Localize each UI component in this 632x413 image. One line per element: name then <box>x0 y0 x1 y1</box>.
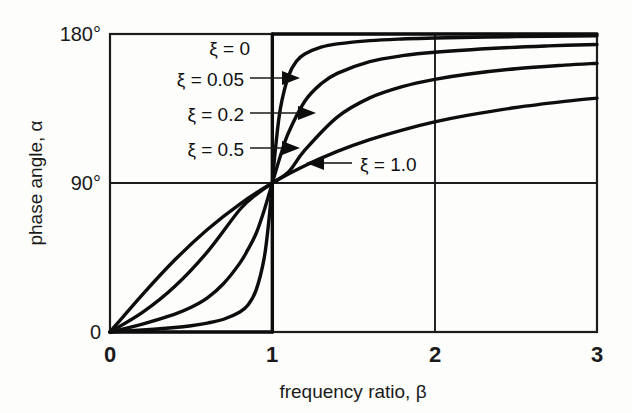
curve-series-4 <box>110 98 597 332</box>
xtick-1: 1 <box>266 342 278 367</box>
arrowhead-xi-10 <box>306 156 324 170</box>
x-axis-title: frequency ratio, β <box>279 381 426 402</box>
leader-xi-005 <box>250 71 300 85</box>
arrowhead-xi-05 <box>282 141 300 155</box>
leader-xi-02 <box>250 106 316 120</box>
xtick-2: 2 <box>429 342 441 367</box>
xtick-3: 3 <box>591 342 603 367</box>
series-label-xi-02: ξ = 0.2 <box>187 104 244 125</box>
chart-svg: ξ = 0 ξ = 0.05 ξ = 0.2 ξ = 0.5 ξ = 1.0 1… <box>0 0 632 413</box>
series-label-xi-05: ξ = 0.5 <box>187 139 244 160</box>
ytick-0: 0 <box>90 321 101 343</box>
curve-series-3 <box>110 63 597 332</box>
leader-xi-10 <box>306 156 352 170</box>
y-axis-title: phase angle, α <box>25 120 46 245</box>
phase-angle-chart-figure: ξ = 0 ξ = 0.05 ξ = 0.2 ξ = 0.5 ξ = 1.0 1… <box>0 0 632 413</box>
ytick-90: 90° <box>71 172 101 194</box>
ytick-180: 180° <box>60 23 101 45</box>
series-label-xi-0: ξ = 0 <box>209 38 250 59</box>
arrowhead-xi-02 <box>298 106 316 120</box>
xtick-0: 0 <box>104 342 116 367</box>
series-label-xi-10: ξ = 1.0 <box>360 154 417 175</box>
series-label-xi-005: ξ = 0.05 <box>177 69 244 90</box>
